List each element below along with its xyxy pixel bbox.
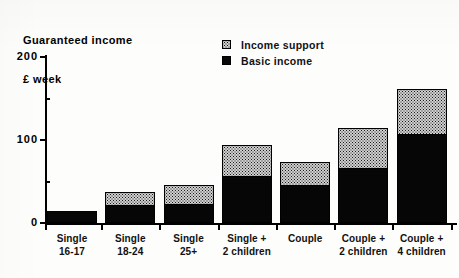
x-tick bbox=[451, 225, 453, 230]
bar-segment-basic-income bbox=[47, 211, 97, 223]
y-tick-major bbox=[40, 139, 47, 141]
bar-chart: Guaranteed income £ week Income support … bbox=[0, 0, 459, 278]
bar bbox=[338, 128, 388, 223]
x-tick bbox=[334, 225, 336, 230]
bar bbox=[105, 192, 155, 223]
plot-area bbox=[47, 57, 455, 223]
bar-segment-income-support bbox=[164, 185, 214, 205]
legend-item-income-support: Income support bbox=[222, 38, 324, 51]
bar-segment-income-support bbox=[105, 192, 155, 205]
legend-label-income-support: Income support bbox=[241, 39, 324, 51]
y-tick-label: 0 bbox=[0, 216, 38, 228]
chart-title: Guaranteed income bbox=[23, 34, 133, 47]
legend-swatch-income-support-icon bbox=[222, 40, 231, 49]
bar-segment-income-support bbox=[280, 162, 330, 185]
x-tick bbox=[218, 225, 220, 230]
bar-segment-basic-income bbox=[338, 168, 388, 223]
x-tick bbox=[159, 225, 161, 230]
x-axis-label: Couple + 4 children bbox=[389, 232, 455, 258]
bar bbox=[397, 89, 447, 223]
bar-segment-basic-income bbox=[105, 205, 155, 223]
x-axis-line bbox=[45, 223, 457, 225]
bar bbox=[47, 211, 97, 223]
bar bbox=[222, 145, 272, 223]
y-tick-label: 200 bbox=[0, 50, 38, 62]
x-axis-label: Single 18-24 bbox=[97, 232, 163, 258]
x-axis-label: Couple bbox=[272, 232, 338, 245]
bar-segment-income-support bbox=[397, 89, 447, 136]
bar bbox=[164, 185, 214, 223]
bar bbox=[280, 162, 330, 223]
y-tick-label: 100 bbox=[0, 133, 38, 145]
bar-segment-basic-income bbox=[164, 204, 214, 223]
x-axis-label: Couple + 2 children bbox=[330, 232, 396, 258]
x-axis-label: Single + 2 children bbox=[214, 232, 280, 258]
bar-segment-income-support bbox=[338, 128, 388, 170]
y-tick-major bbox=[40, 222, 47, 224]
x-tick bbox=[101, 225, 103, 230]
x-axis-label: Single 16-17 bbox=[39, 232, 105, 258]
bar-segment-basic-income bbox=[222, 176, 272, 223]
bar-segment-basic-income bbox=[280, 185, 330, 223]
y-tick-major bbox=[40, 56, 47, 58]
bar-segment-income-support bbox=[222, 145, 272, 177]
x-axis-label: Single 25+ bbox=[156, 232, 222, 258]
x-tick bbox=[392, 225, 394, 230]
x-tick bbox=[276, 225, 278, 230]
x-tick-origin bbox=[45, 225, 47, 230]
bar-segment-basic-income bbox=[397, 134, 447, 223]
